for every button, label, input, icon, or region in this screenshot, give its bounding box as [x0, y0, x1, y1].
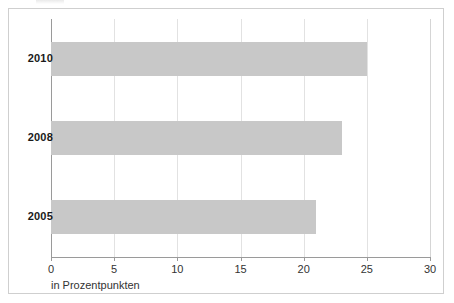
x-tick-mark-25	[367, 257, 368, 261]
x-tick-label-30: 30	[415, 263, 445, 275]
category-label-2005: 2005	[11, 210, 53, 222]
bar-2008	[51, 121, 342, 155]
x-tick-mark-5	[114, 257, 115, 261]
x-tick-mark-10	[177, 257, 178, 261]
bar-2005	[51, 200, 316, 234]
gridline-25	[367, 19, 368, 257]
gridline-30	[430, 19, 431, 257]
x-tick-mark-30	[430, 257, 431, 261]
x-axis-label: in Prozentpunkten	[51, 279, 140, 291]
x-tick-label-10: 10	[162, 263, 192, 275]
x-tick-label-5: 5	[99, 263, 129, 275]
figure-frame: 201020082005 051015202530 in Prozentpunk…	[8, 8, 444, 294]
x-tick-mark-20	[304, 257, 305, 261]
x-tick-label-20: 20	[289, 263, 319, 275]
x-tick-label-0: 0	[36, 263, 66, 275]
x-tick-label-25: 25	[352, 263, 382, 275]
category-label-2010: 2010	[11, 52, 53, 64]
x-tick-mark-15	[241, 257, 242, 261]
category-label-2008: 2008	[11, 131, 53, 143]
x-tick-label-15: 15	[226, 263, 256, 275]
x-tick-mark-0	[51, 257, 52, 261]
bar-2010	[51, 42, 367, 76]
scan-artifact	[36, 0, 64, 4]
